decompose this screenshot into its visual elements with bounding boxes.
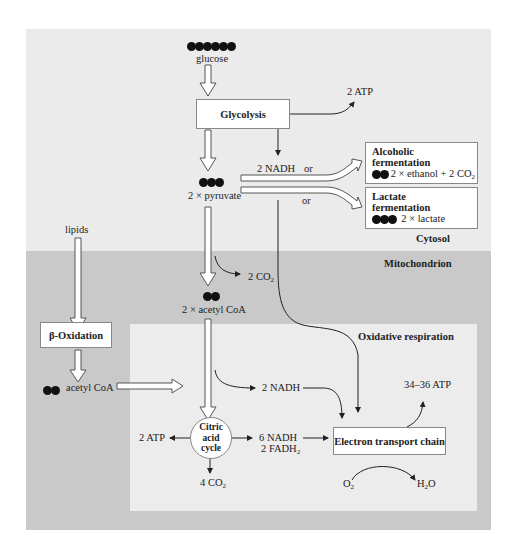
mitochondrion-label: Mitochondrion: [384, 258, 452, 270]
beta-oxidation-box: β-Oxidation: [40, 322, 112, 348]
acetyl-coa-carbon-dots: [203, 290, 219, 301]
lactate-subtitle: fermentation: [372, 202, 471, 213]
etc-atp-label: 34–36 ATP: [404, 379, 451, 391]
pyruvate-label: 2 × pyruvate: [188, 190, 241, 202]
lipids-label: lipids: [65, 224, 88, 236]
lactate-title: Lactate: [372, 191, 471, 202]
glycolysis-atp-label: 2 ATP: [347, 86, 373, 98]
glucose-label: glucose: [196, 53, 228, 65]
electron-transport-chain-box: Electron transport chain: [333, 427, 446, 455]
oxidative-respiration-label: Oxidative respiration: [358, 331, 454, 343]
glucose-carbon-dots: [187, 40, 235, 51]
alcoholic-fermentation-box: Alcoholic fermentation 2 × ethanol + 2 C…: [365, 142, 478, 184]
or-label-1: or: [304, 163, 313, 175]
citric-acid-cycle: Citricacidcycle: [190, 417, 232, 459]
alcoholic-product: 2 × ethanol + 2 CO: [391, 168, 472, 179]
lactate-product: 2 × lactate: [401, 213, 445, 224]
glycolysis-box: Glycolysis: [196, 99, 290, 129]
alcoholic-title: Alcoholic: [372, 146, 471, 157]
lipid-acetyl-coa-dots: [43, 384, 59, 395]
o2-label: O2: [343, 478, 354, 490]
pdh-nadh-label: 2 NADH: [262, 382, 300, 394]
pdh-co2-label: 2 CO2: [248, 271, 274, 283]
cytosol-label: Cytosol: [416, 233, 450, 245]
cac-co2-label: 4 CO2: [200, 477, 226, 489]
pyruvate-carbon-dots: [199, 176, 223, 187]
cac-fadh-label: 2 FADH2: [261, 443, 300, 455]
or-label-2: or: [302, 195, 311, 207]
lactate-fermentation-box: Lactate fermentation 2 × lactate: [365, 187, 478, 229]
acetyl-coa-label: 2 × acetyl CoA: [182, 304, 246, 316]
cac-atp-label: 2 ATP: [139, 432, 165, 444]
alcoholic-subtitle: fermentation: [372, 157, 471, 168]
lipid-acetyl-coa-label: acetyl CoA: [66, 382, 114, 394]
h2o-label: H2O: [417, 478, 436, 490]
glycolysis-nadh-label: 2 NADH: [257, 163, 295, 175]
